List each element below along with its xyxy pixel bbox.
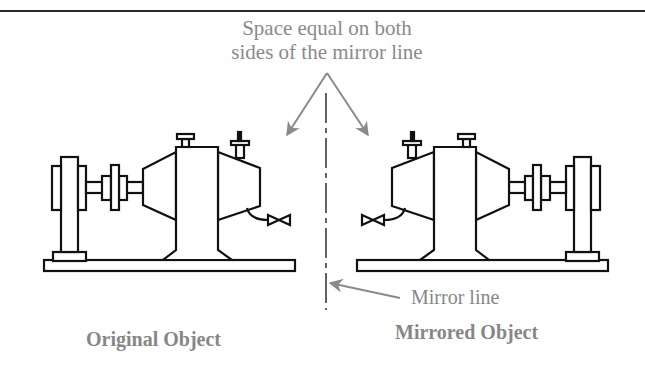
- mirror-diagram: [0, 0, 645, 379]
- mirror-line-label: Mirror line: [411, 286, 499, 309]
- mirrored-object-drawing: [357, 132, 608, 271]
- original-object-label: Original Object: [86, 328, 221, 351]
- arrow-right: [327, 73, 368, 135]
- original-object-drawing: [44, 132, 295, 271]
- mirror-line-pointer: [330, 283, 400, 298]
- arrow-left: [287, 73, 327, 135]
- mirrored-object-label: Mirrored Object: [395, 321, 538, 344]
- equal-space-arrows: [287, 73, 368, 135]
